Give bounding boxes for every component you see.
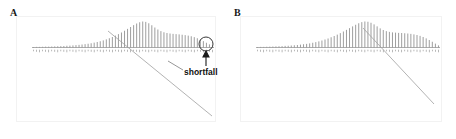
tick-label <box>300 50 301 53</box>
tick-label <box>377 50 378 52</box>
tick-label <box>407 50 408 52</box>
tick-label <box>57 50 58 53</box>
tick-label <box>67 50 68 53</box>
tick-label <box>288 50 289 52</box>
tick-label <box>212 50 213 53</box>
panel-b-chart <box>228 0 456 139</box>
tick-label <box>319 50 320 53</box>
tick-label <box>121 50 122 53</box>
tick-label <box>48 50 49 53</box>
tick-label <box>269 50 270 52</box>
tick-label <box>100 50 101 52</box>
tick-label <box>82 50 83 52</box>
tick-label <box>374 50 375 53</box>
tick-label <box>282 50 283 53</box>
tick-label <box>276 50 277 52</box>
tick-label <box>346 50 347 53</box>
tick-label <box>325 50 326 52</box>
tick-label <box>88 50 89 52</box>
tick-label <box>392 50 393 53</box>
tick-label <box>285 50 286 52</box>
panel-a-tick-labels <box>33 50 213 53</box>
tick-label <box>328 50 329 53</box>
shortfall-arrow-icon <box>203 51 209 66</box>
tick-label <box>361 50 362 52</box>
tick-label <box>352 50 353 52</box>
tick-label <box>158 50 159 53</box>
tick-label <box>164 50 165 52</box>
tick-label <box>124 50 125 52</box>
panel-b-bars <box>258 22 439 48</box>
tick-label <box>411 50 412 53</box>
tick-label <box>76 50 77 53</box>
tick-label <box>414 50 415 52</box>
tick-label <box>266 50 267 52</box>
tick-label <box>54 50 55 52</box>
panel-b: B <box>228 0 456 139</box>
tick-label <box>420 50 421 53</box>
tick-label <box>309 50 310 53</box>
tick-label <box>70 50 71 52</box>
tick-label <box>334 50 335 52</box>
tick-label <box>404 50 405 52</box>
tick-label <box>45 50 46 52</box>
tick-label <box>179 50 180 52</box>
tick-label <box>112 50 113 53</box>
tick-label <box>395 50 396 52</box>
tick-label <box>127 50 128 52</box>
tick-label <box>291 50 292 53</box>
figure-container: A shortfall B <box>0 0 456 139</box>
tick-label <box>386 50 387 52</box>
tick-label <box>42 50 43 52</box>
tick-label <box>273 50 274 53</box>
tick-label <box>167 50 168 53</box>
tick-label <box>85 50 86 53</box>
shortfall-label: shortfall <box>184 68 218 77</box>
tick-label <box>263 50 264 53</box>
tick-label <box>94 50 95 53</box>
tick-label <box>349 50 350 52</box>
tick-label <box>151 50 152 52</box>
tick-label <box>188 50 189 52</box>
tick-label <box>36 50 37 52</box>
tick-label <box>371 50 372 52</box>
tick-label <box>257 50 258 52</box>
tick-label <box>358 50 359 52</box>
tick-label <box>401 50 402 53</box>
tick-label <box>315 50 316 52</box>
tick-label <box>432 50 433 52</box>
tick-label <box>417 50 418 52</box>
tick-label <box>176 50 177 53</box>
shortfall-leader-line <box>168 61 183 70</box>
tick-label <box>297 50 298 52</box>
tick-label <box>429 50 430 53</box>
tick-label <box>389 50 390 52</box>
tick-label <box>294 50 295 52</box>
tick-label <box>109 50 110 52</box>
tick-label <box>64 50 65 52</box>
tick-label <box>260 50 261 52</box>
tick-label <box>380 50 381 52</box>
tick-label <box>438 50 439 53</box>
tick-label <box>145 50 146 52</box>
tick-label <box>33 50 34 52</box>
tick-label <box>340 50 341 52</box>
tick-label <box>161 50 162 52</box>
tick-label <box>435 50 436 52</box>
tick-label <box>170 50 171 52</box>
tick-label <box>115 50 116 52</box>
tick-label <box>173 50 174 52</box>
tick-label <box>194 50 195 53</box>
tick-label <box>365 50 366 53</box>
tick-label <box>303 50 304 52</box>
tick-label <box>139 50 140 53</box>
tick-label <box>337 50 338 53</box>
tick-label <box>182 50 183 52</box>
tick-label <box>79 50 80 52</box>
tick-label <box>191 50 192 52</box>
tick-label <box>423 50 424 52</box>
tick-label <box>355 50 356 53</box>
tick-label <box>322 50 323 52</box>
tick-label <box>312 50 313 52</box>
tick-label <box>426 50 427 52</box>
